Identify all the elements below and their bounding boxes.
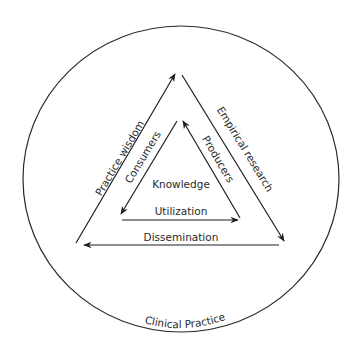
dissemination-label: Dissemination [144,231,219,243]
utilization-label: Utilization [155,205,208,217]
knowledge-cycle-diagram: Knowledge Utilization Dissemination Prac… [0,0,363,348]
empirical-research-label: Empirical research [215,104,276,193]
clinical-practice-label: Clinical Practice [144,310,227,330]
clinical-practice-text: Clinical Practice [144,310,227,330]
knowledge-label: Knowledge [152,178,210,190]
